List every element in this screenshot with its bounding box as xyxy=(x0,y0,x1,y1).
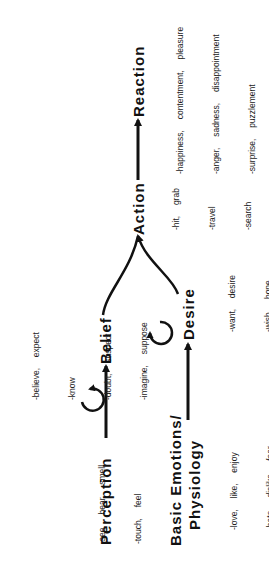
arrow-desire-to-action xyxy=(138,236,178,294)
reaction-example: -surprise, puzzlement xyxy=(246,27,258,174)
action-example: -hit, grab xyxy=(170,186,182,230)
reaction-examples: -happiness, contentment, pleasure -anger… xyxy=(150,27,269,174)
perception-examples: -see, hear, smell -touch, feel xyxy=(72,465,168,544)
action-example: -travel xyxy=(206,186,218,230)
emotions-examples: -love, like, enjoy -hate, dislike, fear … xyxy=(204,446,269,530)
desire-label: Desire xyxy=(180,288,197,340)
mental-state-diagram: -see, hear, smell -touch, feel Perceptio… xyxy=(0,0,269,572)
physiology-label: Physiology xyxy=(186,440,203,530)
perception-example: -touch, feel xyxy=(132,465,144,544)
reaction-example: -happiness, contentment, pleasure xyxy=(174,27,186,174)
belief-label: Belief xyxy=(97,317,114,364)
action-examples: -hit, grab -travel -search -attend to xyxy=(146,186,269,230)
reaction-example: -anger, sadness, disappointment xyxy=(210,27,222,174)
belief-examples: -believe, expect -know -doubt, suspect -… xyxy=(6,322,174,400)
arrow-belief-to-action xyxy=(103,236,138,315)
reaction-label: Reaction xyxy=(130,46,147,117)
belief-example: -imagine, suppose xyxy=(138,322,150,400)
desire-example: -wish, hope xyxy=(262,270,269,332)
action-label: Action xyxy=(130,182,147,235)
desire-example: -want, desire xyxy=(226,270,238,332)
belief-example: -know xyxy=(66,322,78,400)
emotions-example: -love, like, enjoy xyxy=(228,446,240,530)
emotions-example: -hate, dislike, fear xyxy=(264,446,269,530)
desire-examples: -want, desire -wish, hope -ought, should xyxy=(202,270,269,332)
basic-emotions-label: Basic Emotions/ xyxy=(167,414,184,546)
belief-example: -believe, expect xyxy=(30,322,42,400)
perception-label: Perception xyxy=(97,457,114,545)
action-example: -search xyxy=(242,186,254,230)
